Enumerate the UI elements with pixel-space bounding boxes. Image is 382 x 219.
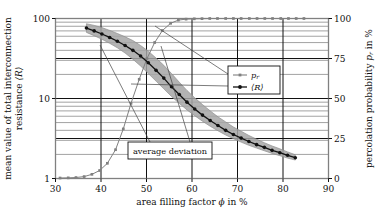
y-right-tick-label: 0 xyxy=(334,174,340,184)
series-pr-point xyxy=(98,169,101,172)
series-mean-resistance-point xyxy=(255,143,259,147)
x-axis-title: area filling factor ϕ in % xyxy=(136,197,248,207)
series-mean-resistance-point xyxy=(85,26,89,30)
x-tick-label: 70 xyxy=(232,184,244,194)
legend-marker-pr-point xyxy=(239,74,242,77)
legend-label-R: ⟨R⟩ xyxy=(251,82,264,92)
series-pr-point xyxy=(138,78,141,81)
series-mean-resistance-point xyxy=(270,149,274,153)
x-tick-label: 60 xyxy=(186,184,198,194)
series-mean-resistance-point xyxy=(216,124,220,128)
series-mean-resistance-point xyxy=(286,154,290,158)
series-pr-point xyxy=(114,148,117,151)
legend-marker-R-point xyxy=(238,85,242,89)
series-mean-resistance-point xyxy=(239,136,243,140)
series-mean-resistance-point xyxy=(293,156,297,160)
series-mean-resistance-point xyxy=(139,54,143,58)
series-mean-resistance-point xyxy=(92,29,96,33)
series-pr-point xyxy=(122,128,125,131)
y-left-axis-title-line2: resistance ⟨R⟩ xyxy=(14,67,24,131)
series-mean-resistance-point xyxy=(208,119,212,123)
y-left-axis-title-line1: mean value of total interconnection xyxy=(3,17,13,180)
series-mean-resistance-point xyxy=(193,107,197,111)
x-tick-label: 50 xyxy=(141,184,153,194)
percolation-resistance-figure: 304050607080901101000255075100area filli… xyxy=(0,0,382,219)
x-tick-label: 30 xyxy=(50,184,62,194)
series-mean-resistance-point xyxy=(247,140,251,144)
series-mean-resistance-point xyxy=(232,133,236,137)
x-tick-label: 40 xyxy=(95,184,107,194)
series-pr-point xyxy=(106,162,109,165)
series-mean-resistance-point xyxy=(131,49,135,53)
series-mean-resistance-point xyxy=(185,100,189,104)
series-mean-resistance-point xyxy=(100,32,104,36)
series-pr-point xyxy=(169,22,172,25)
y-left-tick-label: 1 xyxy=(44,174,50,184)
series-mean-resistance-point xyxy=(201,113,205,117)
series-mean-resistance-point xyxy=(224,129,228,133)
series-pr-point xyxy=(153,41,156,44)
x-tick-label: 90 xyxy=(323,184,335,194)
y-right-tick-label: 50 xyxy=(334,94,346,104)
series-mean-resistance-point xyxy=(123,44,127,48)
y-left-tick-label: 10 xyxy=(39,94,51,104)
series-mean-resistance-point xyxy=(154,69,158,73)
annotation-label: average deviation xyxy=(133,146,208,156)
series-pr-point xyxy=(177,19,180,22)
series-mean-resistance-point xyxy=(162,76,166,80)
y-right-tick-label: 75 xyxy=(334,54,346,64)
series-mean-resistance-point xyxy=(177,93,181,97)
y-left-tick-label: 100 xyxy=(33,14,50,24)
series-mean-resistance-point xyxy=(116,39,120,43)
chart-canvas: 304050607080901101000255075100area filli… xyxy=(0,0,382,219)
y-right-tick-label: 100 xyxy=(334,14,351,24)
series-mean-resistance-point xyxy=(263,146,267,150)
series-mean-resistance-point xyxy=(108,36,112,40)
series-mean-resistance-point xyxy=(147,61,151,65)
x-tick-label: 80 xyxy=(277,184,289,194)
series-pr-point xyxy=(91,173,94,176)
y-right-tick-label: 25 xyxy=(334,134,346,144)
series-pr-point xyxy=(83,175,86,178)
y-right-axis-title: percolation probability pr in % xyxy=(364,29,374,168)
series-mean-resistance-point xyxy=(278,151,282,155)
series-pr-point xyxy=(146,57,149,60)
